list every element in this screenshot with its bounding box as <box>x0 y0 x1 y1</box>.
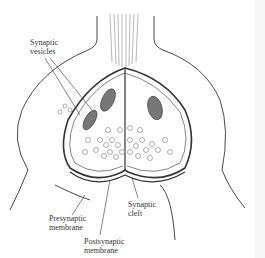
label-line: membrane <box>84 246 118 255</box>
label-line: Synaptic <box>128 200 156 209</box>
mitochondria <box>80 87 165 132</box>
label-line: Postsynaptic <box>84 237 124 246</box>
label-line: membrane <box>49 223 83 232</box>
label-line: Synaptic <box>30 38 58 47</box>
axon-outline-right <box>154 16 226 170</box>
label-synaptic-cleft: Synapticcleft <box>128 200 156 218</box>
label-synaptic-vesicles: Synapticvesicles <box>30 38 58 56</box>
terminal-membrane <box>63 68 191 178</box>
label-presynaptic-membrane: Presynapticmembrane <box>49 214 86 232</box>
label-postsynaptic-membrane: Postsynapticmembrane <box>84 237 124 255</box>
label-line: Presynaptic <box>49 214 86 223</box>
label-line: vesicles <box>30 47 55 56</box>
label-line: cleft <box>128 209 142 218</box>
